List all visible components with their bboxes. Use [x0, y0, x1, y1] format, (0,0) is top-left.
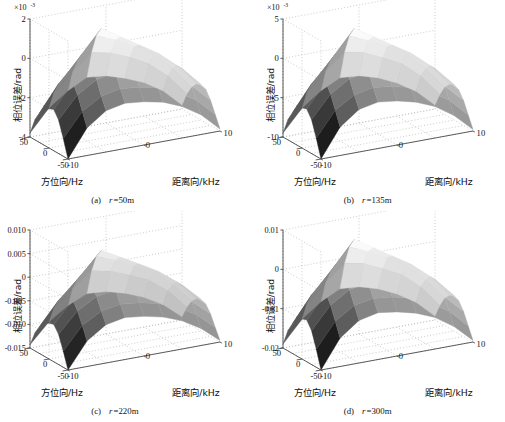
svg-text:相位误差/rad: 相位误差/rad: [12, 279, 23, 334]
svg-text:×10: ×10: [14, 3, 27, 12]
svg-text:0.010: 0.010: [7, 226, 25, 235]
svg-text:相位误差/rad: 相位误差/rad: [12, 68, 23, 123]
svg-text:-3: -3: [284, 2, 289, 8]
svg-text:相位误差/rad: 相位误差/rad: [265, 68, 276, 123]
svg-text:=135m: =135m: [367, 195, 392, 205]
svg-text:r: r: [362, 195, 366, 205]
svg-text:-10: -10: [67, 160, 78, 170]
figure-surface-plot-grid: 20-2-4×10-3500-50-10010方位向/Hz距离向/kHz相位误差…: [0, 0, 505, 422]
svg-text:0: 0: [399, 351, 403, 361]
svg-text:0: 0: [296, 359, 300, 369]
svg-text:0: 0: [296, 148, 300, 158]
svg-text:-10: -10: [67, 371, 78, 381]
svg-text:方位向/Hz: 方位向/Hz: [41, 387, 83, 398]
svg-text:0: 0: [146, 351, 150, 361]
svg-text:5: 5: [275, 14, 279, 24]
svg-text:0: 0: [22, 53, 26, 63]
svg-text:距离向/kHz: 距离向/kHz: [172, 387, 220, 398]
svg-text:=50m: =50m: [114, 195, 135, 205]
svg-text:距离向/kHz: 距离向/kHz: [172, 176, 220, 187]
svg-text:10: 10: [224, 128, 233, 138]
svg-text:方位向/Hz: 方位向/Hz: [294, 387, 336, 398]
panel-d: 0.010-0.01-0.02500-50-10010方位向/Hz距离向/kHz…: [253, 211, 505, 422]
panel-b: 50-5-10×10-3500-50-10010方位向/Hz距离向/kHz相位误…: [253, 0, 505, 211]
svg-text:50: 50: [19, 348, 28, 358]
svg-text:=220m: =220m: [114, 406, 139, 416]
plot-b: 50-5-10×10-3500-50-10010方位向/Hz距离向/kHz相位误…: [253, 0, 505, 211]
svg-text:相位误差/rad: 相位误差/rad: [265, 279, 276, 334]
svg-text:(a): (a): [91, 195, 101, 205]
panel-c: 0.0100.0050-0.005-0.010-0.015500-50-1001…: [0, 211, 252, 422]
svg-text:0: 0: [146, 140, 150, 150]
svg-text:0.01: 0.01: [264, 226, 278, 235]
svg-text:10: 10: [477, 339, 486, 349]
svg-text:0: 0: [399, 140, 403, 150]
svg-text:10: 10: [477, 128, 486, 138]
svg-text:r: r: [362, 406, 366, 416]
svg-text:50: 50: [272, 348, 281, 358]
svg-text:0: 0: [43, 148, 47, 158]
svg-text:(c): (c): [91, 406, 101, 416]
svg-text:2: 2: [22, 14, 26, 24]
plot-d: 0.010-0.01-0.02500-50-10010方位向/Hz距离向/kHz…: [253, 211, 505, 422]
svg-text:r: r: [109, 195, 113, 205]
svg-text:0: 0: [275, 53, 279, 63]
svg-text:=300m: =300m: [367, 406, 392, 416]
plot-c: 0.0100.0050-0.005-0.010-0.015500-50-1001…: [0, 211, 252, 422]
svg-text:10: 10: [224, 339, 233, 349]
svg-text:r: r: [109, 406, 113, 416]
svg-text:0: 0: [43, 359, 47, 369]
panel-a: 20-2-4×10-3500-50-10010方位向/Hz距离向/kHz相位误差…: [0, 0, 252, 211]
svg-text:(d): (d): [344, 406, 354, 416]
svg-text:距离向/kHz: 距离向/kHz: [425, 176, 473, 187]
svg-text:-10: -10: [320, 371, 331, 381]
svg-text:(b): (b): [344, 195, 354, 205]
svg-text:方位向/Hz: 方位向/Hz: [41, 176, 83, 187]
svg-text:-10: -10: [320, 160, 331, 170]
svg-text:方位向/Hz: 方位向/Hz: [294, 176, 336, 187]
svg-text:距离向/kHz: 距离向/kHz: [425, 387, 473, 398]
svg-text:0: 0: [275, 265, 279, 274]
svg-text:×10: ×10: [267, 3, 280, 12]
svg-text:-3: -3: [31, 2, 36, 8]
svg-text:50: 50: [272, 137, 281, 147]
svg-text:50: 50: [19, 137, 28, 147]
plot-a: 20-2-4×10-3500-50-10010方位向/Hz距离向/kHz相位误差…: [0, 0, 252, 211]
svg-text:0.005: 0.005: [7, 250, 25, 259]
